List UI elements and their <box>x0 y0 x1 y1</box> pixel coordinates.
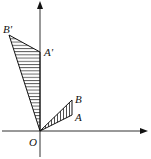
diagram-canvas: B' A' B A O <box>0 0 151 159</box>
triangle-oab <box>40 100 72 131</box>
x-axis-arrow-icon <box>140 128 148 134</box>
x-axis <box>2 128 148 134</box>
label-a: A <box>74 111 82 123</box>
y-axis-arrow-icon <box>37 1 43 9</box>
label-a-prime: A' <box>43 46 54 58</box>
label-origin: O <box>29 136 37 148</box>
label-b: B <box>75 93 82 105</box>
label-b-prime: B' <box>3 23 13 35</box>
triangle-oa-prime-b-prime <box>9 35 40 131</box>
